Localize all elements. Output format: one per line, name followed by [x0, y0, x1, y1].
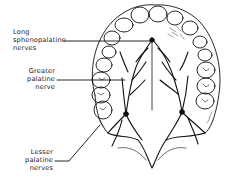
teeth-left — [92, 7, 149, 119]
label-line: palatine — [27, 75, 55, 83]
incisive-foramen — [150, 38, 154, 42]
label-line: nerve — [27, 83, 55, 91]
label-greater-palatine-nerve: Greater palatine nerve — [27, 67, 55, 92]
label-long-sphenopalatine-nerves: Long sphenopalatine nerves — [13, 28, 66, 53]
palate-diagram: Long sphenopalatine nerves Greater palat… — [0, 0, 236, 186]
label-line: nerves — [25, 164, 53, 172]
soft-palate-edge — [108, 133, 205, 168]
label-line: sphenopalatine — [13, 36, 66, 44]
label-line: Lesser — [25, 148, 53, 156]
label-line: Greater — [27, 67, 55, 75]
leader-lesser-palatine — [55, 125, 100, 161]
nerve-branches-right — [153, 40, 205, 144]
label-line: nerves — [13, 44, 66, 52]
label-line: palatine — [25, 156, 53, 164]
teeth-right — [149, 6, 215, 109]
greater-palatine-foramen-right — [180, 110, 185, 115]
label-lesser-palatine-nerves: Lesser palatine nerves — [25, 148, 53, 173]
label-line: Long — [13, 28, 66, 36]
greater-palatine-foramen-left — [124, 112, 129, 117]
